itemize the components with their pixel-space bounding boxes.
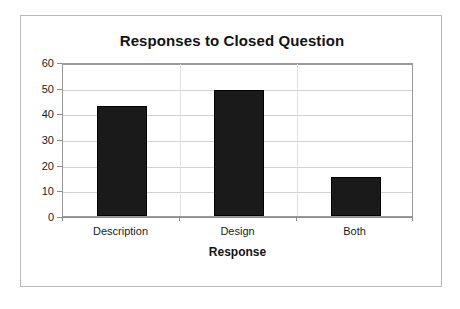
bar-series (63, 64, 412, 216)
y-tick-label-0: 0 (24, 212, 54, 223)
x-tick-mark-1 (179, 216, 180, 221)
y-tick-label-10: 10 (24, 186, 54, 197)
bar-design[interactable] (214, 90, 264, 216)
x-tick-mark-2 (296, 216, 297, 221)
y-tick-label-40: 40 (24, 109, 54, 120)
plot-area (62, 63, 413, 217)
y-tick-label-20: 20 (24, 161, 54, 172)
bar-description[interactable] (97, 106, 147, 216)
chart-frame: Responses to Closed Question Number of P… (20, 15, 442, 287)
x-axis-ticks (62, 216, 413, 222)
x-category-label-design: Design (179, 224, 296, 238)
bar-both[interactable] (331, 177, 381, 216)
x-axis-category-labels: DescriptionDesignBoth (62, 224, 413, 240)
chart-title: Responses to Closed Question (21, 32, 443, 49)
x-tick-mark-0 (62, 216, 63, 221)
y-tick-label-50: 50 (24, 84, 54, 95)
y-tick-label-60: 60 (24, 58, 54, 69)
y-tick-label-30: 30 (24, 135, 54, 146)
x-category-label-both: Both (296, 224, 413, 238)
x-tick-mark-3 (412, 216, 413, 221)
y-axis-ticks: 0102030405060 (21, 63, 62, 217)
x-category-label-description: Description (62, 224, 179, 238)
x-axis-title: Response (62, 245, 413, 259)
